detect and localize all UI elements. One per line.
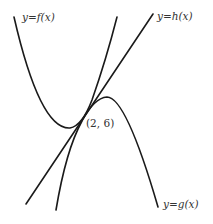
- curve-g: [56, 97, 158, 210]
- label-h: y=h(x): [156, 10, 193, 22]
- label-tangent-point: (2, 6): [86, 117, 114, 129]
- label-g: y=g(x): [162, 198, 199, 210]
- label-f: y=f(x): [21, 11, 55, 23]
- function-diagram: y=f(x) y=h(x) y=g(x) (2, 6): [0, 0, 213, 224]
- curve-f: [14, 17, 117, 128]
